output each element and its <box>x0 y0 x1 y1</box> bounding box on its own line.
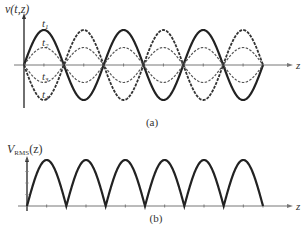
panel-b: VRMS(z) z (b) <box>7 142 301 225</box>
panel-b-ylabel: VRMS(z) <box>7 142 42 157</box>
series-label-t1: t1 <box>42 17 49 31</box>
panel-b-xlabel: z <box>295 200 301 212</box>
panel-a-ylabel: v(t,z) <box>5 2 29 16</box>
panel-a: v(t,z) z t1 t2 t3 t4 (a) <box>5 2 301 129</box>
panel-a-xlabel: z <box>295 59 301 71</box>
panel-a-caption: (a) <box>146 116 159 129</box>
vrms-curve <box>27 160 263 206</box>
series-label-t3: t3 <box>42 70 49 84</box>
series-label-t4: t4 <box>42 88 49 102</box>
panel-b-caption: (b) <box>150 212 163 225</box>
standing-wave-figure: v(t,z) z t1 t2 t3 t4 (a) VRMS(z) z (b) <box>0 0 307 227</box>
panel-b-x-arrow <box>287 204 293 208</box>
series-label-t2: t2 <box>42 36 49 50</box>
panel-a-x-arrow <box>287 63 293 67</box>
